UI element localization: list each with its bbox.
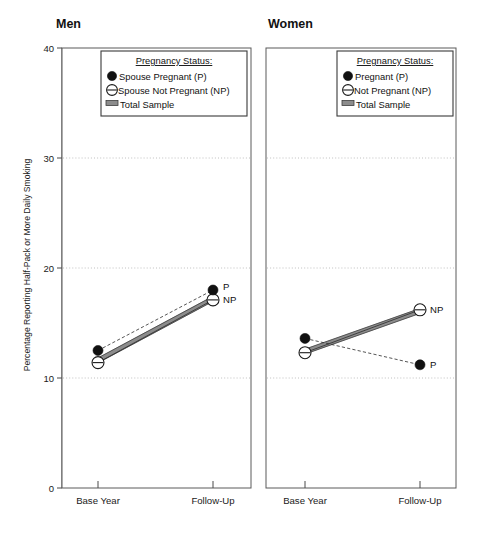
panel-women-point-label-p: P <box>430 359 436 370</box>
panel-women-marker-np-base <box>299 347 311 359</box>
panel-women-marker-p-base <box>300 333 310 343</box>
figure-container: Percentage Reporting Half-Pack or More D… <box>0 0 480 534</box>
panel-women-legend-item-1-label: Not Pregnant (NP) <box>354 85 431 96</box>
panel-men-xtick-label-base: Base Year <box>76 495 121 506</box>
panel-men-legend: Pregnancy Status: Spouse Pregnant (P) Sp… <box>101 51 247 116</box>
open-circle-icon <box>343 85 354 96</box>
two-panel-line-chart: Percentage Reporting Half-Pack or More D… <box>0 0 480 534</box>
panel-women-point-label-np: NP <box>430 304 443 315</box>
panel-men-xtick-label-followup: Follow-Up <box>191 495 234 506</box>
panel-men-legend-title: Pregnancy Status: <box>136 55 213 66</box>
panel-men-title: Men <box>56 17 81 31</box>
y-tick-label-20: 20 <box>43 263 54 274</box>
panel-women-xtick-label-followup: Follow-Up <box>398 495 441 506</box>
panel-women-marker-p-followup <box>415 360 425 370</box>
thick-bar-icon <box>106 101 118 106</box>
y-tick-label-40: 40 <box>43 43 54 54</box>
panel-men-point-label-np: NP <box>223 294 236 305</box>
panel-women: Women Base Year Follow-Up <box>266 17 456 506</box>
panel-men-marker-np-followup <box>207 294 219 306</box>
filled-circle-icon <box>107 71 116 80</box>
y-axis: Percentage Reporting Half-Pack or More D… <box>22 43 62 494</box>
thick-bar-icon <box>342 101 354 106</box>
panel-men-legend-item-1-label: Spouse Not Pregnant (NP) <box>118 85 230 96</box>
panel-men-legend-item-0-label: Spouse Pregnant (P) <box>119 71 207 82</box>
y-tick-label-30: 30 <box>43 153 54 164</box>
y-axis-label: Percentage Reporting Half-Pack or More D… <box>22 159 32 372</box>
panel-women-marker-np-followup <box>414 304 426 316</box>
panel-men-legend-item-2-label: Total Sample <box>120 99 174 110</box>
panel-men-marker-np-base <box>92 357 104 369</box>
panel-men: Men Base Year Follow-Up <box>56 17 251 506</box>
panel-women-legend-item-0-label: Pregnant (P) <box>355 71 408 82</box>
panel-women-xtick-label-base: Base Year <box>283 495 328 506</box>
y-tick-label-10: 10 <box>43 373 54 384</box>
panel-men-marker-p-base <box>93 346 103 356</box>
panel-men-marker-p-followup <box>208 285 218 295</box>
y-tick-label-0: 0 <box>49 483 54 494</box>
panel-women-legend: Pregnancy Status: Pregnant (P) Not Pregn… <box>337 51 453 116</box>
filled-circle-icon <box>343 71 352 80</box>
panel-women-title: Women <box>268 17 313 31</box>
panel-women-legend-title: Pregnancy Status: <box>357 55 434 66</box>
panel-women-legend-item-2-label: Total Sample <box>356 99 410 110</box>
open-circle-icon <box>107 85 118 96</box>
panel-men-point-label-p: P <box>223 281 229 292</box>
